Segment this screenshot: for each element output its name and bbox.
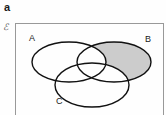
set-label-a: A: [29, 33, 35, 43]
set-label-c: C: [56, 96, 63, 106]
venn-diagram-svg: A B C: [0, 0, 166, 115]
shaded-region-b-only: [0, 0, 166, 115]
venn-figure-panel: a ℰ A B C: [0, 0, 166, 115]
set-label-b: B: [145, 34, 151, 44]
